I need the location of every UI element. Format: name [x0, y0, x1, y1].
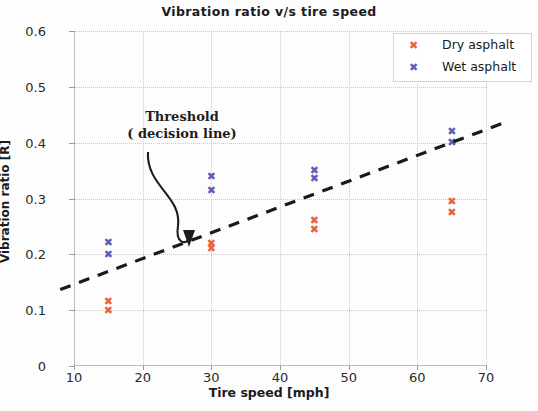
x-marker-icon: ✖: [408, 39, 419, 53]
y-tick-label: 0.4: [0, 135, 46, 150]
data-point-marker: ✖: [104, 296, 113, 307]
x-tick-label: 20: [123, 370, 163, 385]
threshold-annotation: Threshold ( decision line): [108, 108, 256, 142]
y-tick-mark: [69, 31, 75, 32]
annotation-line-2: ( decision line): [108, 125, 256, 142]
x-tick-label: 50: [329, 370, 369, 385]
data-point-marker: ✖: [447, 196, 456, 207]
chart-legend: ✖ Dry asphalt ✖ Wet asphalt: [393, 33, 532, 82]
data-point-marker: ✖: [310, 173, 319, 184]
x-tick-label: 10: [54, 370, 94, 385]
y-tick-label: 0.1: [0, 303, 46, 318]
chart-title: Vibration ratio v/s tire speed: [0, 4, 538, 19]
data-point-marker: ✖: [447, 207, 456, 218]
y-tick-label: 0: [0, 359, 46, 374]
data-point-marker: ✖: [310, 165, 319, 176]
data-point-marker: ✖: [447, 126, 456, 137]
y-tick-label: 0.5: [0, 79, 46, 94]
y-tick-mark: [69, 143, 75, 144]
x-tick-label: 30: [191, 370, 231, 385]
legend-item-dry-asphalt[interactable]: ✖ Dry asphalt: [394, 36, 533, 58]
legend-label-dry: Dry asphalt: [442, 37, 514, 52]
y-tick-mark: [69, 199, 75, 200]
y-tick-label: 0.3: [0, 191, 46, 206]
data-point-marker: ✖: [104, 237, 113, 248]
gridline-vertical: [211, 31, 212, 366]
x-tick-label: 70: [466, 370, 506, 385]
chart-figure: Vibration ratio v/s tire speed Vibration…: [0, 0, 538, 411]
gridline-vertical: [280, 31, 281, 366]
y-tick-mark: [69, 254, 75, 255]
y-tick-label: 0.2: [0, 247, 46, 262]
data-point-marker: ✖: [310, 215, 319, 226]
legend-item-wet-asphalt[interactable]: ✖ Wet asphalt: [394, 58, 533, 80]
x-marker-icon: ✖: [408, 61, 419, 75]
x-tick-label: 60: [397, 370, 437, 385]
x-axis-title: Tire speed [mph]: [0, 385, 538, 400]
annotation-line-1: Threshold: [108, 108, 256, 125]
data-point-marker: ✖: [310, 224, 319, 235]
legend-label-wet: Wet asphalt: [442, 59, 516, 74]
gridline-vertical: [143, 31, 144, 366]
x-tick-label: 40: [260, 370, 300, 385]
y-tick-mark: [69, 87, 75, 88]
y-tick-mark: [69, 310, 75, 311]
gridline-vertical: [349, 31, 350, 366]
y-tick-label: 0.6: [0, 24, 46, 39]
